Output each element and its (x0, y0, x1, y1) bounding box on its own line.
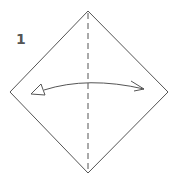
origami-diagram (0, 0, 182, 186)
unfold-arrowhead-icon (31, 84, 45, 95)
fold-arrowhead-icon (131, 81, 144, 91)
fold-unfold-arrow-curve (44, 83, 144, 90)
